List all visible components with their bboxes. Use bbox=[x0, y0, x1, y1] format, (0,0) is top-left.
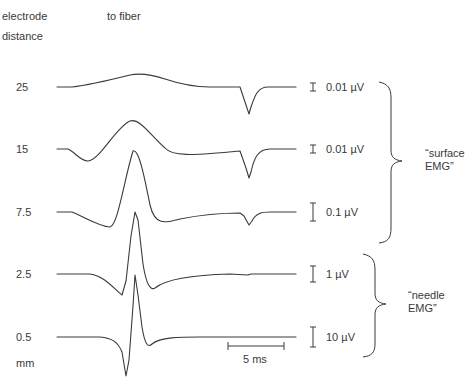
scale-label-25: 0.01 µV bbox=[326, 81, 364, 93]
scale-label-7-5: 0.1 µV bbox=[326, 206, 358, 218]
needle-emg-line2: EMG” bbox=[408, 302, 445, 315]
surface-emg-line2: EMG” bbox=[425, 160, 465, 173]
time-scale-bar bbox=[228, 342, 284, 350]
emg-traces bbox=[0, 0, 472, 391]
trace-7-5 bbox=[57, 151, 296, 227]
surface-emg-label: “surface EMG” bbox=[425, 147, 465, 173]
needle-emg-line1: “needle bbox=[408, 289, 445, 302]
scale-label-2-5: 1 µV bbox=[326, 268, 349, 280]
trace-25 bbox=[57, 74, 296, 114]
time-scale-label: 5 ms bbox=[243, 353, 267, 365]
trace-2-5 bbox=[57, 212, 296, 295]
braces bbox=[363, 82, 402, 357]
amplitude-scale-bars bbox=[310, 83, 316, 347]
surface-emg-line1: “surface bbox=[425, 147, 465, 160]
needle-brace bbox=[363, 254, 386, 357]
scale-label-0-5: 10 µV bbox=[326, 331, 355, 343]
needle-emg-label: “needle EMG” bbox=[408, 289, 445, 315]
scale-label-15: 0.01 µV bbox=[326, 143, 364, 155]
trace-15 bbox=[57, 121, 296, 178]
surface-brace bbox=[379, 82, 402, 243]
